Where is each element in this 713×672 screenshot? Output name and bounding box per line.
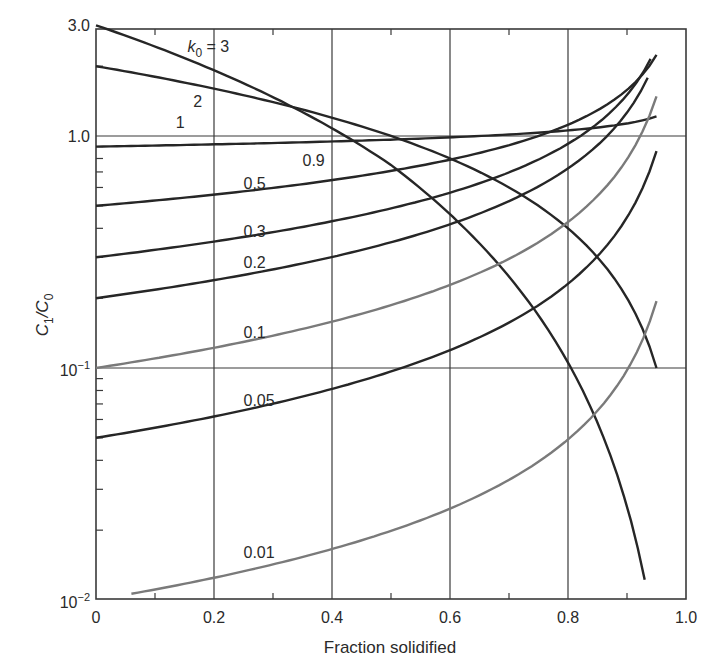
curve-label: 0.5 [244, 175, 266, 192]
curve-label: 0.05 [244, 392, 275, 409]
x-tick-label: 0.2 [203, 609, 225, 626]
y-axis-title: C1/C0 [33, 293, 56, 336]
curve-k0-0_2 [96, 78, 648, 298]
y-tick-label: 1.0 [68, 128, 90, 145]
y-tick-label: 3.0 [68, 17, 90, 34]
curve-label: 0.01 [244, 544, 275, 561]
y-tick-label: 10−2 [60, 591, 90, 611]
curve-label: 1 [176, 114, 185, 131]
x-tick-label: 0.4 [321, 609, 343, 626]
curve-label: 0.9 [303, 152, 325, 169]
x-tick-label: 0.8 [557, 609, 579, 626]
curve-label: 0.3 [244, 223, 266, 240]
x-tick-label: 0 [92, 609, 101, 626]
curve-label: k0 = 3 [187, 38, 229, 60]
y-tick-label: 10−1 [60, 359, 90, 379]
curve-k0-0_05 [96, 151, 657, 438]
curve-label: 2 [193, 93, 202, 110]
curve-k0-0_01 [131, 301, 656, 594]
curve-labels: k0 = 320.90.50.30.20.10.050.011 [176, 38, 325, 561]
curves [96, 25, 657, 594]
curve-label: 0.2 [244, 254, 266, 271]
x-axis-title: Fraction solidified [324, 638, 456, 657]
curve-label: 0.1 [244, 324, 266, 341]
x-tick-label: 0.6 [439, 609, 461, 626]
chart: k0 = 320.90.50.30.20.10.050.011 00.20.40… [0, 0, 713, 672]
x-tick-label: 1.0 [675, 609, 697, 626]
curve-k0-3 [96, 25, 645, 579]
